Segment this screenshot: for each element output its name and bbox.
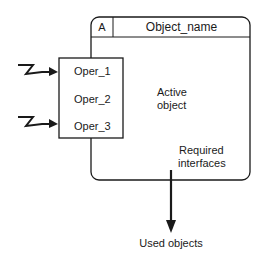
operation-oper-3: Oper_3 [74, 120, 111, 133]
required-interfaces-label-line1: Required [179, 144, 224, 157]
object-type-letter: A [93, 21, 111, 34]
object-name: Object_name [113, 21, 250, 34]
operation-oper-2: Oper_2 [74, 93, 111, 106]
event-arrow-icon-oper-3 [18, 117, 58, 128]
diagram-canvas [0, 0, 271, 259]
operation-oper-1: Oper_1 [74, 65, 111, 78]
active-object-label-line2: object [157, 99, 186, 112]
used-objects-label: Used objects [121, 237, 221, 250]
event-arrow-icon-oper-1 [18, 65, 58, 76]
required-interfaces-label-line2: interfaces [178, 157, 226, 170]
active-object-label-line1: Active [157, 86, 187, 99]
